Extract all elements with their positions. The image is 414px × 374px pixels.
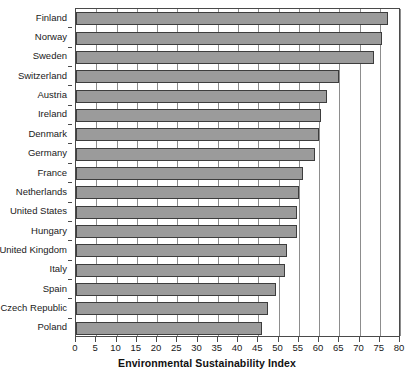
bar [76,244,287,257]
x-axis-tick-label: 50 [272,342,283,354]
x-axis-tick-label: 20 [151,342,162,354]
bar [76,206,297,219]
x-axis-tick-label: 60 [313,342,324,354]
y-axis-label: Denmark [28,129,67,139]
y-axis-label: Ireland [38,109,67,119]
y-axis-tick [68,298,72,299]
x-axis-tick-label: 35 [211,342,222,354]
y-axis-label: Sweden [33,51,67,61]
y-axis-tick [68,182,72,183]
y-axis-tick [68,260,72,261]
x-axis-tick-label: 25 [171,342,182,354]
x-axis-tick-label: 0 [72,342,77,354]
bar [76,32,382,45]
y-axis-label: Switzerland [18,71,67,81]
y-axis-label: Norway [35,32,67,42]
y-axis-label: Netherlands [16,187,67,197]
y-axis-label: Finland [36,13,67,23]
y-axis-label: France [37,168,67,178]
y-axis-tick [68,221,72,222]
gridline-80 [400,9,401,336]
x-axis-title: Environmental Sustainability Index [0,357,414,369]
x-axis-tick-label: 55 [292,342,303,354]
y-axis-tick [68,202,72,203]
bar [76,51,374,64]
x-axis-tick-label: 5 [93,342,98,354]
y-axis-label: United Kingdom [0,245,67,255]
y-axis-category-labels: FinlandNorwaySwedenSwitzerlandAustriaIre… [0,8,72,337]
y-axis-tick [68,105,72,106]
bar [76,283,276,296]
y-axis-tick [68,240,72,241]
x-axis-tick-label: 40 [232,342,243,354]
y-axis-label: Italy [50,264,67,274]
y-axis-tick [68,318,72,319]
x-axis-tick-label: 75 [373,342,384,354]
bar [76,167,303,180]
plot-area [75,8,400,337]
bar [76,302,268,315]
bar [76,90,327,103]
y-axis-label: Poland [37,322,67,332]
x-axis-tick-labels: 05101520253035404550556065707580 [0,342,414,356]
bar [76,264,285,277]
x-axis-tick-label: 80 [394,342,405,354]
bar [76,322,262,335]
bar [76,148,315,161]
y-axis-label: Czech Republic [0,303,67,313]
y-axis-label: Germany [28,148,67,158]
bars-layer [76,9,399,336]
bar [76,109,321,122]
bar [76,70,339,83]
y-axis-label: United States [10,206,67,216]
y-axis-tick [68,143,72,144]
y-axis-label: Hungary [31,226,67,236]
y-axis-tick [68,124,72,125]
bar [76,12,388,25]
x-axis-tick-label: 45 [252,342,263,354]
y-axis-tick [68,66,72,67]
y-axis-tick [68,163,72,164]
y-axis-label: Austria [37,90,67,100]
y-axis-tick [68,27,72,28]
x-axis-tick-label: 65 [333,342,344,354]
bar [76,128,319,141]
bar-chart: FinlandNorwaySwedenSwitzerlandAustriaIre… [0,0,414,374]
x-axis-tick-label: 10 [110,342,121,354]
x-axis-tick-label: 70 [353,342,364,354]
bar [76,186,299,199]
bar [76,225,297,238]
x-axis-tick-label: 30 [191,342,202,354]
y-axis-tick [68,47,72,48]
y-axis-tick [68,279,72,280]
y-axis-label: Spain [43,284,67,294]
y-axis-tick [68,85,72,86]
x-axis-tick-label: 15 [130,342,141,354]
